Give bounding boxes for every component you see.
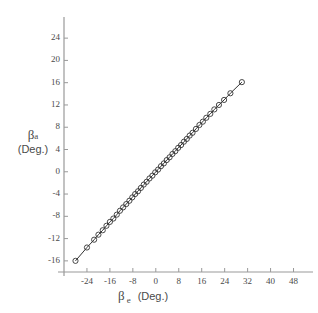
x-tick-label: -24: [77, 276, 97, 286]
x-tick-label: -8: [123, 276, 143, 286]
y-axis-subscript-glyph: a: [34, 131, 38, 141]
chart-plot-area: [0, 0, 318, 313]
chart-figure: -24-16-8081624324048-16-12-8-40481216202…: [0, 0, 318, 313]
x-axis-label-units: (Deg.): [131, 290, 169, 302]
y-tick-label: 12: [36, 99, 60, 109]
x-tick-label: -16: [100, 276, 120, 286]
y-tick-label: 20: [36, 54, 60, 64]
y-tick-label: 16: [36, 77, 60, 87]
x-tick-label: 48: [284, 276, 304, 286]
y-axis-label: βa (Deg.): [4, 128, 62, 156]
x-axis-beta-glyph: β: [118, 288, 125, 303]
x-tick-label: 24: [215, 276, 235, 286]
y-tick-label: -4: [36, 188, 60, 198]
x-tick-label: 32: [238, 276, 258, 286]
x-axis-subscript-glyph: e: [125, 295, 131, 305]
x-tick-label: 40: [261, 276, 281, 286]
y-tick-label: -16: [36, 255, 60, 265]
x-tick-label: 8: [169, 276, 189, 286]
x-tick-label: 0: [146, 276, 166, 286]
x-tick-label: 16: [192, 276, 212, 286]
y-tick-label: -12: [36, 233, 60, 243]
y-axis-label-symbol: βa: [4, 128, 62, 143]
x-axis-label: βe(Deg.): [118, 288, 168, 305]
y-tick-label: -8: [36, 210, 60, 220]
y-tick-label: 24: [36, 32, 60, 42]
data-series: [73, 80, 245, 264]
y-axis-label-units: (Deg.): [4, 143, 62, 156]
y-tick-label: 0: [36, 166, 60, 176]
